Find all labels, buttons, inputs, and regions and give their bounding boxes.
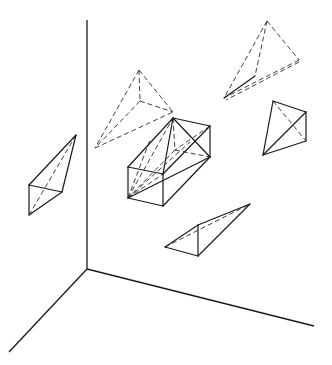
hidden-edge — [29, 135, 76, 215]
visible-edge — [224, 76, 255, 98]
hidden-edge — [226, 62, 299, 100]
bottom-wedge — [165, 204, 250, 256]
hidden-edge — [139, 70, 140, 101]
visible-edge — [165, 247, 198, 256]
hidden-edge — [140, 101, 173, 112]
polyhedra-diagram — [0, 0, 332, 365]
top-right-tetrahedron — [224, 21, 299, 100]
left-floor-axis — [9, 269, 87, 352]
visible-edge — [29, 192, 62, 215]
visible-edge — [163, 157, 210, 206]
visible-edge — [128, 118, 173, 167]
visible-edge — [198, 204, 250, 225]
hidden-edge — [128, 142, 190, 198]
hidden-edge — [139, 70, 173, 112]
right-floor-axis — [87, 269, 314, 326]
hidden-edge — [173, 118, 175, 150]
visible-edge — [29, 135, 76, 185]
central-box — [128, 118, 210, 206]
hidden-edge — [128, 150, 175, 198]
hidden-edge — [224, 60, 299, 98]
left-tetrahedron — [29, 135, 76, 215]
hidden-edge — [224, 21, 267, 98]
hidden-edge — [255, 21, 267, 76]
visible-edge — [198, 204, 250, 256]
visible-edge — [62, 135, 76, 192]
hidden-edge — [165, 204, 250, 247]
hidden-edge — [128, 174, 163, 198]
visible-edge — [273, 101, 306, 112]
visible-edge — [165, 225, 198, 247]
coordinate-corner-axes — [9, 20, 314, 352]
visible-edge — [128, 198, 163, 206]
right-kite — [263, 101, 306, 155]
visible-edge — [173, 118, 210, 126]
hidden-edge — [267, 21, 299, 60]
diagram-canvas — [0, 0, 332, 365]
dashed-tetrahedron-center — [95, 70, 173, 148]
visible-edge — [128, 157, 210, 198]
polyhedra-group — [29, 21, 306, 256]
